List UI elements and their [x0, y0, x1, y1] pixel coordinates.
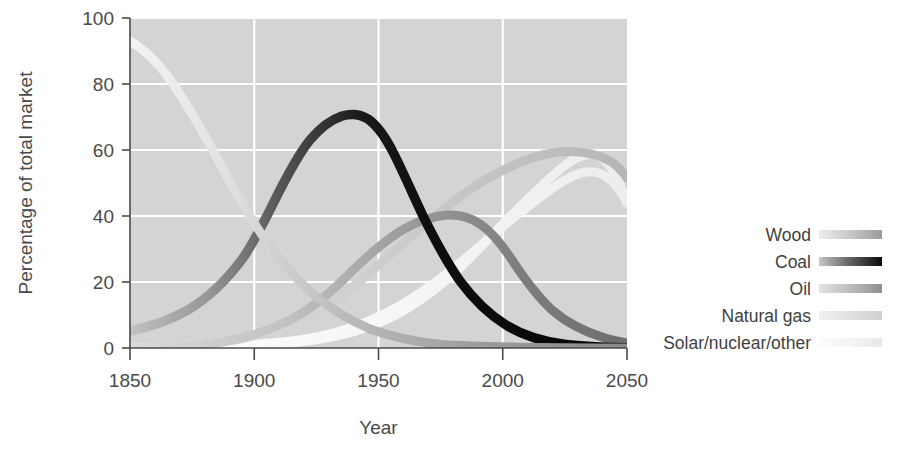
y-tick-label-80: 80: [93, 74, 114, 95]
legend-label-wood: Wood: [766, 225, 811, 245]
y-tick-label-100: 100: [82, 8, 114, 29]
legend-label-solar-nuclear-other: Solar/nuclear/other: [663, 333, 811, 353]
chart-svg: 100 80 60 40 20 0 1850 1900 1950 2000 20…: [0, 0, 897, 458]
legend-swatch-coal: [819, 257, 882, 266]
y-tick-label-60: 60: [93, 140, 114, 161]
y-tick-label-20: 20: [93, 272, 114, 293]
x-tick-label-1900: 1900: [233, 370, 275, 391]
legend-swatch-natural-gas: [819, 311, 882, 320]
x-axis-title: Year: [359, 417, 398, 438]
legend-swatch-oil: [819, 284, 882, 293]
legend-label-oil: Oil: [790, 279, 811, 299]
x-tick-label-1950: 1950: [357, 370, 399, 391]
x-tick-label-2000: 2000: [482, 370, 524, 391]
x-tick-label-2050: 2050: [606, 370, 648, 391]
legend-label-coal: Coal: [775, 252, 811, 272]
legend-swatch-wood: [819, 230, 882, 239]
y-tick-label-40: 40: [93, 206, 114, 227]
legend-swatch-solar-nuclear-other: [819, 338, 882, 347]
y-axis-title: Percentage of total market: [15, 71, 36, 295]
legend-label-natural-gas: Natural gas: [722, 306, 812, 326]
chart-figure: 100 80 60 40 20 0 1850 1900 1950 2000 20…: [0, 0, 897, 458]
y-tick-label-0: 0: [103, 338, 114, 359]
x-tick-label-1850: 1850: [109, 370, 151, 391]
